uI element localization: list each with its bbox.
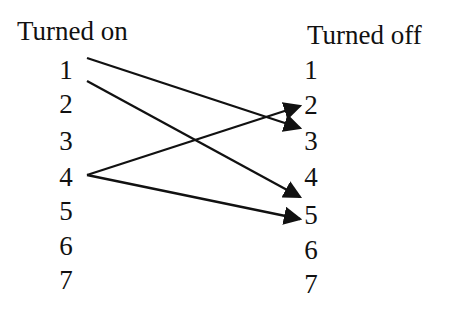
arrow-1-to-4 (87, 81, 300, 197)
arrows-layer (0, 0, 464, 313)
arrow-4-to-2 (87, 106, 300, 175)
arrow-4-to-5 (87, 175, 300, 219)
diagram: Turned on Turned off 1 2 3 4 5 6 7 1 2 3… (0, 0, 464, 313)
